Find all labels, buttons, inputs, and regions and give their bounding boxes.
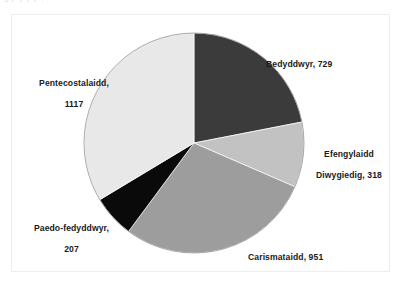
pie-label-pentecostalaidd: Pentecostalaidd, 1117	[22, 67, 126, 120]
pie-label-bedyddwyr-line1: Bedyddwyr, 729	[266, 59, 332, 69]
pie-label-efengylaidd-line2: Diwygiedig, 318	[306, 170, 392, 181]
pie-label-pentecostalaidd-line1: Pentecostalaidd,	[22, 78, 126, 89]
pie-label-paedo-line2: 207	[23, 244, 120, 255]
pie-label-pentecostalaidd-line2: 1117	[22, 99, 126, 110]
pie-label-efengylaidd-diwygiedig: Efengylaidd Diwygiedig, 318	[306, 138, 392, 191]
pie-label-paedo-fedyddwyr: Paedo-fedyddwyr, 207	[23, 212, 120, 265]
pie-label-carismataidd-line1: Carismataidd, 951	[248, 252, 323, 262]
pie-label-bedyddwyr: Bedyddwyr, 729	[266, 48, 332, 69]
pie-label-efengylaidd-line1: Efengylaidd	[306, 149, 392, 160]
pie-label-carismataidd: Carismataidd, 951	[248, 241, 323, 262]
pie-label-paedo-line1: Paedo-fedyddwyr,	[23, 223, 120, 234]
